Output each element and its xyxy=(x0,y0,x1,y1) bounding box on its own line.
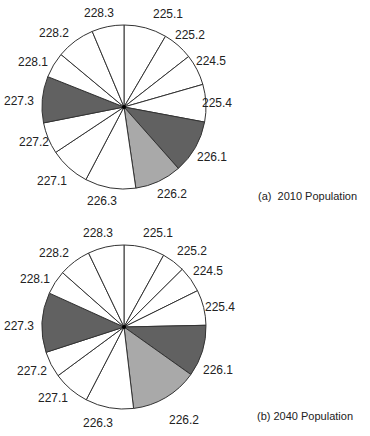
slice-label: 225.2 xyxy=(177,244,207,258)
slice-label: 227.1 xyxy=(38,391,68,405)
slice-label: 225.1 xyxy=(143,226,173,240)
slice-label: 227.3 xyxy=(4,319,34,333)
slice-label: 228.3 xyxy=(83,226,113,240)
pie-center-dot xyxy=(122,325,126,329)
caption-2040: (b) 2040 Population xyxy=(257,410,353,422)
slice-label: 226.2 xyxy=(169,413,199,427)
slice-label: 225.4 xyxy=(205,300,235,314)
slice-label: 226.3 xyxy=(83,416,113,430)
slice-label: 228.2 xyxy=(39,246,69,260)
pie-chart-2040: 225.1225.2224.5225.4226.1226.2226.3227.1… xyxy=(0,0,370,436)
slice-label: 228.1 xyxy=(20,272,50,286)
slice-label: 226.1 xyxy=(203,363,233,377)
slice-label: 227.2 xyxy=(17,364,47,378)
slice-label: 224.5 xyxy=(193,264,223,278)
pie-2040-svg: 225.1225.2224.5225.4226.1226.2226.3227.1… xyxy=(0,0,370,436)
